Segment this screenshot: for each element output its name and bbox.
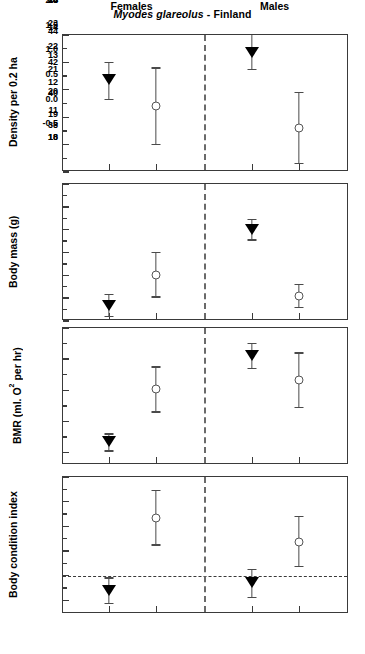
y-tick-mark (63, 62, 69, 63)
y-tick-mark-minor (63, 130, 67, 131)
y-tick-mark (63, 89, 69, 90)
x-tick-mark (299, 457, 300, 463)
error-bar-cap-lower (105, 316, 114, 317)
y-tick-mark-minor (63, 563, 67, 564)
x-tick-mark (252, 457, 253, 463)
y-tick-mark (63, 144, 69, 145)
bmr-label-post: per hr) (11, 347, 23, 383)
y-tick-mark-minor (63, 263, 67, 264)
y-tick-mark (63, 252, 69, 253)
x-tick-mark (252, 313, 253, 319)
data-marker-open-circle (151, 271, 160, 280)
y-axis-ticks-body-condition: -0.50.00.51.01.52.0 (20, 0, 58, 137)
data-marker-open-circle (294, 537, 303, 546)
error-bar-cap-upper (248, 219, 257, 220)
y-tick-mark (63, 421, 69, 422)
data-marker-filled-triangle (102, 300, 116, 311)
sex-group-divider (204, 184, 206, 319)
x-tick-mark (156, 313, 157, 319)
y-tick-mark-minor (63, 513, 67, 514)
error-bar-cap-upper (248, 569, 257, 570)
error-bar-cap-upper (105, 433, 114, 434)
panel-body-condition (62, 476, 348, 613)
error-bar-cap-upper (151, 252, 160, 253)
x-axis-group-label-males: Males (260, 0, 289, 12)
y-tick-mark-minor (63, 158, 67, 159)
data-marker-filled-triangle (102, 585, 116, 596)
y-tick-label: 1.5 (24, 20, 58, 30)
error-bar-cap-lower (248, 69, 257, 70)
data-marker-filled-triangle (245, 224, 259, 235)
y-tick-mark-minor (63, 374, 67, 375)
y-tick-mark (63, 206, 69, 207)
error-bar-cap-lower (294, 566, 303, 567)
error-bar-cap-upper (248, 343, 257, 344)
data-marker-open-circle (151, 102, 160, 111)
error-bar-cap-upper (151, 67, 160, 68)
data-marker-open-circle (294, 124, 303, 133)
error-bar-cap-lower (151, 144, 160, 145)
chart-title-region: - Finland (204, 8, 252, 20)
y-tick-mark (63, 171, 69, 172)
y-tick-mark (63, 358, 69, 359)
y-tick-label: 1.0 (24, 44, 58, 54)
x-tick-mark (156, 606, 157, 612)
x-tick-mark (156, 457, 157, 463)
sex-group-divider (204, 328, 206, 463)
x-tick-mark (252, 164, 253, 170)
y-tick-label: 0.5 (24, 69, 58, 79)
panel-bmr (62, 327, 348, 464)
y-tick-mark (63, 390, 69, 391)
error-bar-cap-lower (248, 239, 257, 240)
y-tick-mark (63, 34, 69, 35)
error-bar-cap-upper (105, 62, 114, 63)
error-bar-cap-upper (294, 516, 303, 517)
y-tick-mark-minor (63, 587, 67, 588)
x-tick-mark (109, 164, 110, 170)
y-tick-mark-minor (63, 218, 67, 219)
bmr-label-superscript: 2 (8, 383, 15, 387)
y-tick-mark-minor (63, 240, 67, 241)
figure-multi-panel-chart: Myodes glareolus - Finland Density per 0… (0, 0, 365, 654)
x-axis-group-label-females: Females (110, 0, 152, 12)
y-tick-mark (63, 476, 69, 477)
y-tick-mark-minor (63, 343, 67, 344)
y-tick-mark-minor (63, 75, 67, 76)
y-tick-mark (63, 526, 69, 527)
data-marker-open-circle (294, 291, 303, 300)
y-tick-mark (63, 550, 69, 551)
error-bar-cap-lower (248, 368, 257, 369)
y-tick-mark-minor (63, 436, 67, 437)
y-tick-mark (63, 501, 69, 502)
error-bar-cap-lower (248, 597, 257, 598)
y-tick-mark (63, 297, 69, 298)
error-bar-cap-upper (151, 490, 160, 491)
data-marker-open-circle (294, 376, 303, 385)
y-tick-mark (63, 320, 69, 321)
panel-body-mass (62, 183, 348, 320)
sex-group-divider (204, 477, 206, 612)
error-bar-cap-lower (105, 603, 114, 604)
data-marker-open-circle (151, 513, 160, 522)
x-tick-mark (109, 457, 110, 463)
x-tick-mark (109, 606, 110, 612)
error-bar-cap-upper (105, 577, 114, 578)
error-bar-cap-upper (294, 284, 303, 285)
error-bar-cap-upper (294, 352, 303, 353)
data-marker-filled-triangle (102, 436, 116, 447)
bmr-label-pre: BMR (ml. O (11, 387, 23, 444)
error-bar-cap-lower (294, 163, 303, 164)
y-axis-title-density: Density per 0.2 ha (8, 34, 19, 171)
data-marker-filled-triangle (245, 350, 259, 361)
x-tick-mark (299, 164, 300, 170)
y-tick-mark (63, 327, 69, 328)
y-tick-mark (63, 183, 69, 184)
error-bar-cap-upper (105, 294, 114, 295)
data-marker-filled-triangle (102, 74, 116, 85)
y-tick-mark-minor (63, 489, 67, 490)
sex-group-divider (204, 35, 206, 170)
y-tick-mark-minor (63, 48, 67, 49)
y-axis-title-bmr: BMR (ml. O2 per hr) (8, 327, 22, 464)
error-bar-cap-lower (151, 296, 160, 297)
x-tick-mark (252, 606, 253, 612)
